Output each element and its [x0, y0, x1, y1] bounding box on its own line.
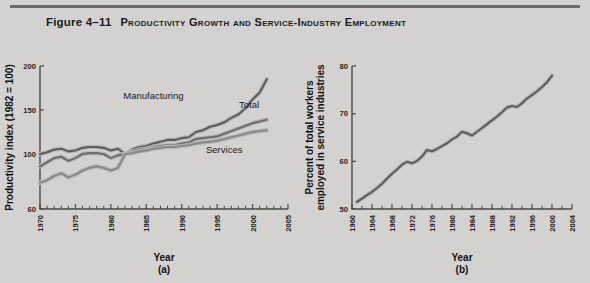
- svg-text:2000: 2000: [249, 215, 258, 232]
- svg-text:Year: Year: [451, 252, 472, 263]
- svg-text:1972: 1972: [408, 215, 417, 232]
- svg-text:2004: 2004: [568, 214, 577, 232]
- svg-text:Year: Year: [153, 252, 174, 263]
- svg-text:Services: Services: [206, 144, 243, 155]
- productivity-index-chart: 6010015020019701975198019851990199520002…: [0, 52, 300, 283]
- svg-text:1964: 1964: [368, 214, 377, 232]
- figure-title: Productivity Growth and Service-Industry…: [120, 16, 406, 28]
- svg-text:2000: 2000: [548, 215, 557, 232]
- svg-text:employed in service industries: employed in service industries: [315, 64, 326, 211]
- svg-text:50: 50: [340, 205, 348, 214]
- svg-text:60: 60: [28, 205, 36, 214]
- svg-text:60: 60: [340, 157, 348, 166]
- svg-text:70: 70: [340, 109, 348, 118]
- svg-text:1980: 1980: [107, 215, 116, 232]
- figure-caption: Figure 4–11Productivity Growth and Servi…: [46, 12, 406, 30]
- svg-text:1960: 1960: [348, 215, 357, 232]
- svg-text:80: 80: [340, 62, 348, 71]
- svg-text:Productivity index (1982 = 100: Productivity index (1982 = 100): [4, 64, 15, 210]
- svg-text:1984: 1984: [468, 214, 477, 232]
- svg-text:Percent of total workers: Percent of total workers: [304, 80, 315, 194]
- svg-text:1968: 1968: [388, 215, 397, 232]
- svg-text:1996: 1996: [528, 215, 537, 232]
- figure-number: Figure 4–11: [46, 16, 111, 28]
- svg-text:1985: 1985: [142, 215, 151, 232]
- svg-text:1992: 1992: [508, 215, 517, 232]
- svg-text:(b): (b): [456, 264, 469, 275]
- figure-top-rule: [10, 5, 580, 8]
- svg-text:(a): (a): [158, 264, 170, 275]
- svg-text:1975: 1975: [71, 215, 80, 232]
- svg-text:1976: 1976: [428, 215, 437, 232]
- svg-text:200: 200: [23, 62, 36, 71]
- svg-text:1970: 1970: [36, 215, 45, 232]
- chart-panel-a: 6010015020019701975198019851990199520002…: [0, 52, 300, 283]
- svg-text:1995: 1995: [213, 215, 222, 232]
- svg-text:2005: 2005: [284, 215, 293, 232]
- svg-text:1990: 1990: [178, 215, 187, 232]
- svg-text:1988: 1988: [488, 215, 497, 232]
- chart-panel-b: 5060708019601964196819721976198019841988…: [300, 52, 590, 283]
- service-employment-chart: 5060708019601964196819721976198019841988…: [300, 52, 590, 283]
- svg-text:150: 150: [23, 106, 36, 115]
- svg-text:Total: Total: [239, 99, 259, 110]
- svg-text:100: 100: [23, 150, 36, 159]
- svg-text:Manufacturing: Manufacturing: [123, 90, 183, 101]
- svg-text:1980: 1980: [448, 215, 457, 232]
